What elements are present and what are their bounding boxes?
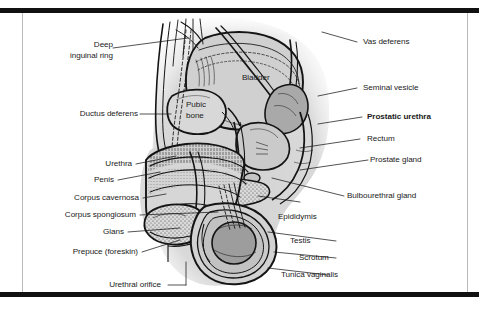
- label-bulbourethral-gland: Bulbourethral gland: [347, 191, 416, 201]
- label-line-1: Deep: [94, 40, 113, 49]
- label-line-2: bone: [186, 111, 204, 120]
- label-deep-inguinal-ring: Deep inguinal ring: [45, 40, 113, 61]
- label-scrotum: Scrotum: [299, 253, 329, 263]
- label-line-2: inguinal ring: [70, 51, 113, 60]
- label-glans: Glans: [60, 227, 124, 237]
- label-tunica-vaginalis: Tunica vaginalis: [281, 270, 338, 280]
- label-rectum: Rectum: [367, 134, 395, 144]
- label-prostate-gland: Prostate gland: [370, 155, 422, 165]
- label-bladder: Bladder: [242, 73, 270, 83]
- label-urethral-orifice: Urethral orifice: [62, 280, 161, 290]
- label-pubic-bone: Pubic bone: [186, 100, 226, 121]
- label-prostatic-urethra: Prostatic urethra: [367, 112, 431, 122]
- label-prepuce-foreskin: Prepuce (foreskin): [34, 247, 138, 257]
- label-epididymis: Epididymis: [278, 212, 317, 222]
- label-seminal-vesicle: Seminal vesicle: [363, 83, 418, 93]
- label-corpus-spongiosum: Corpus spongiosum: [22, 210, 136, 220]
- label-corpus-cavernosa: Corpus cavernosa: [32, 193, 139, 203]
- label-penis: Penis: [60, 175, 114, 185]
- label-vas-deferens: Vas deferens: [363, 37, 410, 47]
- label-line-1: Pubic: [186, 100, 206, 109]
- anatomical-figure: Deep inguinal ring Ductus deferens Ureth…: [0, 0, 479, 309]
- label-urethra: Urethra: [60, 159, 132, 169]
- label-ductus-deferens: Ductus deferens: [40, 109, 138, 119]
- label-testis: Testis: [290, 236, 310, 246]
